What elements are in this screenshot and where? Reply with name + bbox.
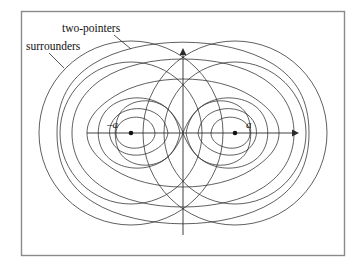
x-axis-negative-a-label: –a [106, 118, 119, 130]
focus-left-point [129, 131, 134, 136]
surrounders-label: surrounders [26, 40, 81, 52]
diagram-canvas: two-pointers surrounders –a a [0, 0, 362, 267]
x-axis-positive-a-label: a [246, 118, 252, 130]
two-pointers-label: two-pointers [62, 22, 121, 35]
cassini-ovals-figure: two-pointers surrounders –a a [0, 0, 362, 267]
focus-right-point [233, 131, 238, 136]
